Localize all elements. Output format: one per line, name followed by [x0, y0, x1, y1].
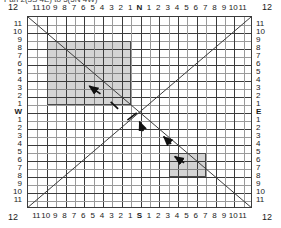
grid-line-horizontal: [28, 201, 251, 202]
axis-tick-label: 11: [256, 196, 276, 204]
axis-left: 1110987654321W1234567891011: [2, 16, 24, 208]
plot-area[interactable]: [27, 16, 252, 208]
axis-bottom: 1110987654321S1234567891011: [27, 212, 252, 222]
axis-right: 1110987654321E1234567891011: [255, 16, 279, 208]
grid-line-vertical: [206, 17, 207, 207]
south-east-shaded-region: [169, 153, 207, 177]
grid-line-vertical: [37, 17, 38, 207]
corner-label-top-left: 12: [8, 3, 18, 12]
grid-line-vertical: [197, 17, 198, 207]
grid-line-horizontal: [28, 169, 251, 170]
grid-line-horizontal: [28, 153, 251, 154]
axis-tick-label: 11: [235, 212, 251, 220]
grid-line-horizontal: [28, 185, 251, 186]
grid-line-horizontal: [28, 129, 251, 130]
grid-line-horizontal: [28, 145, 251, 146]
grid-line-vertical: [159, 17, 160, 207]
grid-line-horizontal: [28, 25, 251, 26]
grid-line-vertical: [150, 17, 151, 207]
north-west-shaded-region: [47, 41, 131, 105]
corner-label-bottom-left: 12: [8, 213, 18, 222]
axis-top: 1110987654321N1234567891011: [27, 4, 252, 14]
grid-line-vertical: [187, 17, 188, 207]
axis-tick-label: 11: [235, 4, 251, 12]
grid-line-vertical: [216, 17, 217, 207]
grid-line-horizontal: [28, 33, 251, 34]
grid-line-horizontal: [28, 137, 251, 138]
grid-line-horizontal: [28, 177, 251, 178]
grid-line-vertical: [234, 17, 235, 207]
axis-tick-label: 11: [4, 196, 22, 204]
grid-line-vertical: [131, 17, 132, 207]
corner-label-top-right: 12: [262, 3, 272, 12]
grid-line-vertical: [225, 17, 226, 207]
grid-line-vertical: [244, 17, 245, 207]
grid-line-horizontal: [28, 161, 251, 162]
grid-line-vertical: [169, 17, 170, 207]
grid-line-vertical: [178, 17, 179, 207]
grid-line-horizontal: [28, 193, 251, 194]
grid-line-horizontal: [28, 121, 251, 122]
grid-line-horizontal: [28, 105, 251, 106]
grid-line-vertical: [141, 17, 142, 207]
grid-line-horizontal: [28, 113, 251, 114]
corner-label-bottom-right: 12: [262, 213, 272, 222]
